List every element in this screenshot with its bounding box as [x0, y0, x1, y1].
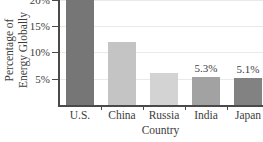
y-tick-label-20%: 20%: [16, 0, 50, 6]
x-tick-label-russia: Russia: [143, 109, 185, 122]
y-axis-line: [58, 0, 60, 107]
x-tick-label-india: India: [185, 109, 227, 122]
x-axis-line: [58, 105, 263, 107]
y-tick-label-5%: 5%: [16, 73, 50, 85]
bar-russia: [150, 73, 178, 105]
bar-value-label-japan: 5.1%: [227, 63, 263, 75]
x-tick-label-japan: Japan: [227, 109, 263, 122]
x-axis-title: Country: [111, 124, 211, 137]
bar-japan: [234, 78, 262, 105]
x-tick-label-us: U.S.: [59, 109, 101, 122]
bar-china: [108, 42, 136, 105]
bar-value-label-india: 5.3%: [185, 62, 227, 74]
bar-chart-figure: Percentage of Energy Globally 5%10%15%20…: [0, 0, 263, 142]
plot-area: 5%10%15%20%U.S.ChinaRussia5.3%India5.1%J…: [0, 0, 263, 142]
bar-us: [66, 0, 94, 105]
x-tick-label-china: China: [101, 109, 143, 122]
bar-india: [192, 77, 220, 105]
y-tick-label-10%: 10%: [16, 46, 50, 58]
y-tick-label-15%: 15%: [16, 20, 50, 32]
